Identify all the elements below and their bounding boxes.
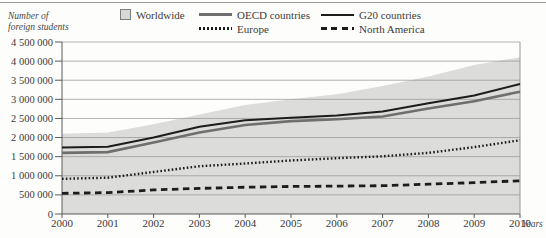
- y-axis-tick-label: 3 500 000: [0, 74, 53, 87]
- x-axis-tick-label: 2006: [315, 217, 359, 229]
- x-axis-tick-label: 2005: [269, 217, 313, 229]
- x-axis-tick-label: 2001: [86, 217, 130, 229]
- y-axis-tick-label: 4 500 000: [0, 36, 53, 49]
- x-axis-tick-label: 2004: [223, 217, 267, 229]
- x-axis-tick-label: 2008: [406, 217, 450, 229]
- x-axis-tick-label: 2009: [452, 217, 496, 229]
- x-axis-tick-label: 2007: [361, 217, 405, 229]
- x-axis-tick-label: 2000: [40, 217, 84, 229]
- y-axis-tick-label: 2 000 000: [0, 131, 53, 144]
- y-axis-tick-label: 500 000: [0, 188, 53, 201]
- figure-foreign-students-chart: Number of foreign students Worldwide OEC…: [0, 0, 546, 238]
- y-axis-tick-label: 1 500 000: [0, 150, 53, 163]
- x-axis-tick-label: 2002: [132, 217, 176, 229]
- y-axis-tick-label: 2 500 000: [0, 112, 53, 125]
- x-axis-title: Years: [522, 219, 543, 229]
- y-axis-tick-label: 3 000 000: [0, 93, 53, 106]
- chart-plot-area: [0, 0, 546, 238]
- x-axis-tick-label: 2003: [177, 217, 221, 229]
- y-axis-tick-label: 4 000 000: [0, 55, 53, 68]
- y-axis-tick-label: 1 000 000: [0, 169, 53, 182]
